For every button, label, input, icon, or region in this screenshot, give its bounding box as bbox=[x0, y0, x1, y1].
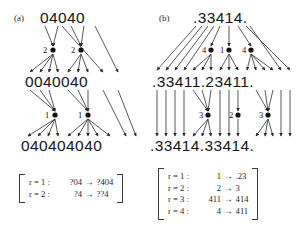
rule-b-4-rhs: 411 bbox=[236, 206, 249, 218]
node-label-a1-0: 2 bbox=[43, 45, 47, 55]
node-label-a2-1: 1 bbox=[78, 110, 82, 120]
rulebox-a: r = 1 : ?04 → ?404 r = 2 : ?4 → ??4 bbox=[19, 174, 123, 203]
derivation-figure: (a) 04040 0040040 040404040 bbox=[0, 0, 303, 242]
rule-a-1: r = 1 : ?04 → ?404 bbox=[29, 177, 113, 189]
rule-b-2-lhs: 2 bbox=[197, 183, 221, 195]
node-label-b2-0: 3 bbox=[199, 110, 203, 120]
rule-a-1-lhs: ?04 bbox=[60, 177, 82, 189]
rule-b-3: r = 3 : 411 → 414 bbox=[168, 194, 248, 206]
panel-a: (a) 04040 0040040 040404040 bbox=[0, 0, 150, 242]
rule-b-4-arrow-icon: → bbox=[221, 206, 236, 218]
a-nodes-2 bbox=[52, 112, 90, 117]
rule-b-1: r = 1 : 1 → .23 bbox=[168, 171, 248, 183]
node-label-b1-1: 1 bbox=[220, 45, 224, 55]
rulebox-b: r = 1 : 1 → .23 r = 2 : 2 → 3 r = 3 : 41… bbox=[158, 168, 258, 220]
rule-a-2: r = 2 : ?4 → ??4 bbox=[29, 189, 113, 201]
node-label-a2-0: 1 bbox=[45, 110, 49, 120]
rule-a-1-rhs: ?404 bbox=[97, 177, 114, 189]
panel-b-edges: 4 1 4 3 2 3 bbox=[150, 0, 303, 170]
panel-b: (b) .33414. .33411.23411. .33414.33414. bbox=[150, 0, 303, 242]
panel-a-edges: 2 2 1 1 bbox=[0, 0, 150, 170]
bracket-right-a bbox=[117, 174, 123, 203]
node-label-b2-2: 3 bbox=[259, 110, 263, 120]
rule-b-3-lhs: 411 bbox=[197, 194, 221, 206]
rule-b-1-rhs: .23 bbox=[236, 171, 247, 183]
rule-b-3-arrow-icon: → bbox=[221, 194, 236, 206]
rule-a-2-arrow-icon: → bbox=[82, 189, 97, 201]
bracket-right-b bbox=[252, 168, 258, 220]
rule-b-2-arrow-icon: → bbox=[221, 183, 236, 195]
rule-a-1-name: r = 1 : bbox=[29, 177, 60, 189]
rule-a-2-name: r = 2 : bbox=[29, 189, 60, 201]
b-nodes-1 bbox=[208, 47, 253, 52]
node-label-b1-2: 4 bbox=[242, 45, 247, 55]
rule-a-2-lhs: ?4 bbox=[60, 189, 82, 201]
node-label-a1-1: 2 bbox=[71, 45, 75, 55]
rule-b-2-name: r = 2 : bbox=[168, 183, 197, 195]
rule-b-1-lhs: 1 bbox=[197, 171, 221, 183]
rule-b-4: r = 4 : 4 → 411 bbox=[168, 206, 248, 218]
node-label-b1-0: 4 bbox=[202, 45, 207, 55]
rule-b-2-rhs: 3 bbox=[236, 183, 240, 195]
rule-b-3-name: r = 3 : bbox=[168, 194, 197, 206]
rule-b-1-arrow-icon: → bbox=[221, 171, 236, 183]
a-nodes-1 bbox=[50, 47, 83, 52]
rule-a-1-arrow-icon: → bbox=[82, 177, 97, 189]
rule-b-3-rhs: 414 bbox=[236, 194, 249, 206]
rule-b-1-name: r = 1 : bbox=[168, 171, 197, 183]
rule-a-2-rhs: ??4 bbox=[97, 189, 109, 201]
rule-b-2: r = 2 : 2 → 3 bbox=[168, 183, 248, 195]
node-label-b2-1: 2 bbox=[229, 110, 233, 120]
rule-b-4-name: r = 4 : bbox=[168, 206, 197, 218]
rule-b-4-lhs: 4 bbox=[197, 206, 221, 218]
